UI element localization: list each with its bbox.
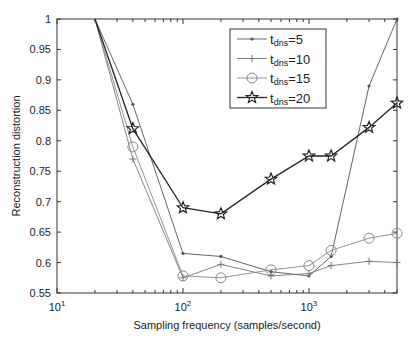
- y-tick-label: 1: [45, 13, 51, 25]
- x-tick-label: 102: [175, 299, 192, 313]
- y-tick-label: 0.7: [36, 196, 51, 208]
- y-tick-label: 0.55: [30, 287, 51, 299]
- x-tick-label: 103: [301, 299, 318, 313]
- line-chart: 0.550.60.650.70.750.80.850.90.9511011021…: [0, 0, 415, 342]
- y-axis-label: Reconstruction distortion: [10, 95, 22, 216]
- dot-marker: [181, 252, 184, 255]
- x-axis-label: Sampling frequency (samples/second): [133, 319, 320, 331]
- y-tick-label: 0.85: [30, 104, 51, 116]
- y-tick-label: 0.6: [36, 257, 51, 269]
- y-tick-label: 0.95: [30, 43, 51, 55]
- dot-marker: [395, 17, 398, 20]
- dot-marker: [250, 37, 253, 40]
- x-tick-label: 101: [49, 299, 66, 313]
- y-tick-label: 0.9: [36, 74, 51, 86]
- y-tick-label: 0.65: [30, 226, 51, 238]
- dot-marker: [219, 255, 222, 258]
- y-tick-label: 0.8: [36, 135, 51, 147]
- dot-marker: [131, 103, 134, 106]
- legend: tdns=5tdns=10tdns=15tdns=20: [230, 29, 326, 108]
- axes-box: [57, 19, 397, 293]
- plot-area: 0.550.60.650.70.750.80.850.90.9511011021…: [10, 13, 403, 331]
- dot-marker: [367, 84, 370, 87]
- y-tick-label: 0.75: [30, 165, 51, 177]
